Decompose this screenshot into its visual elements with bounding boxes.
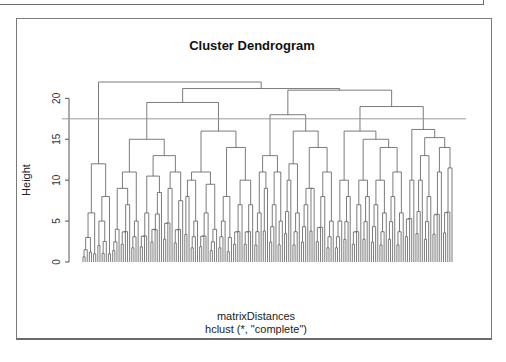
- y-tick-label: 10: [51, 174, 62, 186]
- y-axis: 05101520: [51, 92, 69, 264]
- method-label: hclust (*, "complete"): [205, 323, 307, 335]
- y-tick-label: 15: [51, 133, 62, 145]
- dendrogram-branches: [83, 82, 452, 262]
- dendrogram-chart: Cluster Dendrogram 05101520 Height matri…: [0, 0, 506, 362]
- y-axis-label: Height: [20, 164, 32, 196]
- y-tick-label: 5: [51, 218, 62, 224]
- chart-title: Cluster Dendrogram: [189, 38, 315, 53]
- y-tick-label: 20: [51, 92, 62, 104]
- x-axis-label: matrixDistances: [217, 310, 296, 322]
- y-tick-label: 0: [51, 259, 62, 265]
